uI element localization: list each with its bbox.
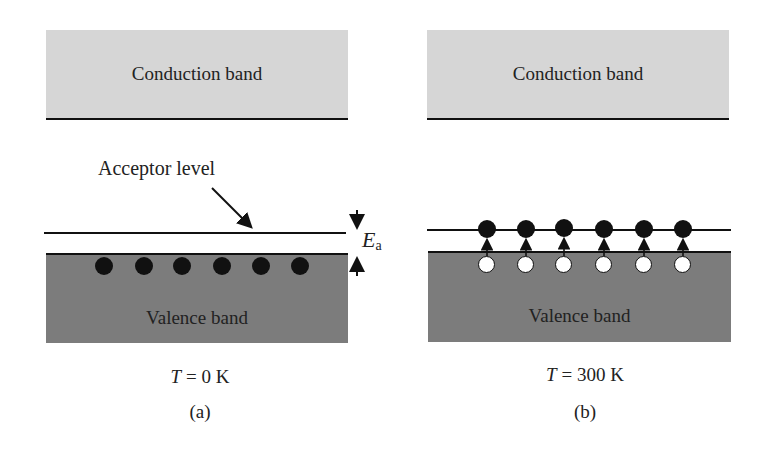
acceptor-pointer-arrow-icon	[212, 188, 250, 226]
arrows-overlay	[0, 0, 772, 452]
excitation-arrows	[487, 240, 683, 256]
